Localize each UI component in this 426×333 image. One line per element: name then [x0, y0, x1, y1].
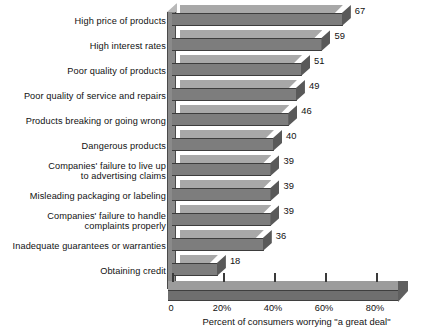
- bar-top-face: [180, 155, 271, 163]
- bar-end-cap: [270, 155, 279, 176]
- bar-value-label: 40: [286, 131, 296, 141]
- bar-front-face: [172, 163, 271, 176]
- category-label-line: Misleading packaging or labeling: [0, 191, 166, 201]
- bar-value-label: 39: [283, 181, 293, 191]
- x-tick-mark: [172, 273, 174, 282]
- bar: [172, 30, 322, 43]
- bar-end-cap: [273, 130, 282, 151]
- bar-front-face: [172, 113, 289, 126]
- x-tick-label: 60%: [315, 303, 333, 313]
- bar-front-face: [172, 63, 302, 76]
- bar-end-cap: [217, 255, 226, 276]
- category-label-line: Companies' failure to live up: [0, 161, 166, 171]
- bar: [172, 255, 218, 268]
- category-axis-labels: High price of productsHigh interest rate…: [0, 0, 167, 290]
- bar-value-label: 46: [301, 106, 311, 116]
- category-label: High price of products: [0, 16, 166, 26]
- bar-top-face: [180, 255, 218, 263]
- bar-end-cap: [288, 105, 297, 126]
- category-label: Poor quality of products: [0, 66, 166, 76]
- bar: [172, 130, 274, 143]
- axis-floor-bevel: [398, 281, 408, 302]
- category-label: Products breaking or going wrong: [0, 116, 166, 126]
- category-label-line: Poor quality of service and repairs: [0, 91, 166, 101]
- category-label-line: to advertising claims: [0, 171, 166, 181]
- bar-top-face: [180, 205, 271, 213]
- category-label: Companies' failure to live upto advertis…: [0, 161, 166, 182]
- category-label: Misleading packaging or labeling: [0, 191, 166, 201]
- bar-front-face: [172, 38, 322, 51]
- plot-area: 6759514946403939393618 020%40%60%80%: [167, 0, 426, 333]
- bar-value-label: 59: [334, 31, 344, 41]
- category-label-line: Companies' failure to handle: [0, 211, 166, 221]
- category-label-line: complaints properly: [0, 221, 166, 231]
- bar-end-cap: [321, 30, 330, 51]
- category-label-line: Inadequate guarantees or warranties: [0, 241, 166, 251]
- bar-end-cap: [301, 55, 310, 76]
- x-tick-label: 80%: [366, 303, 384, 313]
- bar: [172, 230, 264, 243]
- category-label-line: High price of products: [0, 16, 166, 26]
- bar-top-face: [180, 5, 343, 13]
- bar-front-face: [172, 263, 218, 276]
- bar-top-face: [180, 230, 264, 238]
- bar: [172, 105, 289, 118]
- bar: [172, 5, 343, 18]
- bar-front-face: [172, 213, 271, 226]
- x-tick-label: 0: [168, 303, 173, 313]
- bar-value-label: 18: [230, 256, 240, 266]
- bar-top-face: [180, 55, 302, 63]
- bar-top-face: [180, 105, 289, 113]
- bar-value-label: 39: [283, 206, 293, 216]
- chart-figure: High price of productsHigh interest rate…: [0, 0, 426, 333]
- bar-top-face: [180, 180, 271, 188]
- bar-end-cap: [263, 230, 272, 251]
- x-tick-label: 40%: [264, 303, 282, 313]
- bar: [172, 80, 297, 93]
- bar-front-face: [172, 138, 274, 151]
- bar-value-label: 36: [276, 231, 286, 241]
- category-label: Poor quality of service and repairs: [0, 91, 166, 101]
- category-label-line: Obtaining credit: [0, 266, 166, 276]
- x-tick-mark: [376, 273, 378, 282]
- bar-front-face: [172, 238, 264, 251]
- bar-value-label: 67: [355, 6, 365, 16]
- bar-top-face: [180, 130, 274, 138]
- category-label: Obtaining credit: [0, 266, 166, 276]
- bar: [172, 155, 271, 168]
- category-label-line: Dangerous products: [0, 141, 166, 151]
- x-tick-label: 20%: [213, 303, 231, 313]
- bar-end-cap: [296, 80, 305, 101]
- axis-floor-top: [168, 281, 398, 290]
- x-tick-mark: [325, 273, 327, 282]
- category-label: Companies' failure to handlecomplaints p…: [0, 211, 166, 232]
- bar-top-face: [180, 80, 297, 88]
- category-label-line: Products breaking or going wrong: [0, 116, 166, 126]
- bar: [172, 180, 271, 193]
- bar-front-face: [172, 13, 343, 26]
- category-label: High interest rates: [0, 41, 166, 51]
- category-label-line: High interest rates: [0, 41, 166, 51]
- bar-top-face: [180, 30, 322, 38]
- bar-front-face: [172, 88, 297, 101]
- bar-value-label: 39: [283, 156, 293, 166]
- bar: [172, 205, 271, 218]
- x-tick-mark: [274, 273, 276, 282]
- bar: [172, 55, 302, 68]
- bar-end-cap: [270, 180, 279, 201]
- bar-end-cap: [342, 5, 351, 26]
- category-label: Inadequate guarantees or warranties: [0, 241, 166, 251]
- category-label-line: Poor quality of products: [0, 66, 166, 76]
- axis-floor-front: [168, 290, 398, 301]
- category-label: Dangerous products: [0, 141, 166, 151]
- x-axis-title: Percent of consumers worrying "a great d…: [167, 316, 426, 327]
- bar-value-label: 49: [309, 81, 319, 91]
- bar-front-face: [172, 188, 271, 201]
- x-tick-mark: [223, 273, 225, 282]
- bar-value-label: 51: [314, 56, 324, 66]
- bar-end-cap: [270, 205, 279, 226]
